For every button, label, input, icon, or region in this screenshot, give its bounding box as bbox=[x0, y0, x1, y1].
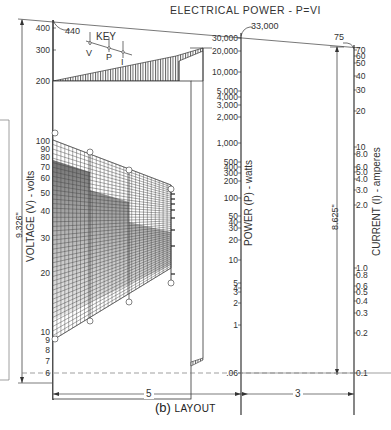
current-tick-label: 40 bbox=[356, 71, 365, 81]
current-scale-label: CURRENT (I) - amperes bbox=[371, 147, 382, 256]
caption-text: LAYOUT bbox=[175, 403, 216, 414]
power-tick-label: 1,000 bbox=[198, 138, 238, 148]
current-tick-label: 2.0 bbox=[356, 200, 368, 210]
key-label: KEY bbox=[96, 32, 116, 42]
voltage-tick-label: 8 bbox=[10, 345, 50, 355]
current-tick-label: 0.4 bbox=[356, 296, 368, 306]
figure-caption: (b) LAYOUT bbox=[155, 400, 216, 415]
power-tick-label: 1 bbox=[198, 320, 238, 330]
power-tick-label: 200 bbox=[198, 176, 238, 186]
power-tick-label: 20 bbox=[198, 235, 238, 245]
power-tick-label: 20,000 bbox=[198, 46, 238, 56]
power-tick-label: 30 bbox=[198, 223, 238, 233]
current-tick-label: 20 bbox=[356, 106, 365, 116]
current-scale-length: 8.625" bbox=[330, 204, 340, 230]
key-v-label: V bbox=[86, 49, 92, 58]
left-width-dimension: 5 bbox=[144, 389, 154, 399]
current-tick-label: 8.0 bbox=[356, 149, 368, 159]
diagram-title: ELECTRICAL POWER - P=VI bbox=[170, 4, 321, 16]
current-tick-label: 0.2 bbox=[356, 328, 368, 338]
voltage-tick-label: 300 bbox=[10, 45, 50, 55]
current-tick-label: 50 bbox=[356, 58, 365, 68]
current-tick-label: 4.0 bbox=[356, 174, 368, 184]
key-p-label: P bbox=[106, 53, 112, 62]
power-max-value: 33,000 bbox=[251, 22, 279, 31]
current-tick-label: 30 bbox=[356, 85, 365, 95]
current-tick-label: 0.3 bbox=[356, 308, 368, 318]
voltage-tick-label: 20 bbox=[10, 268, 50, 278]
voltage-max-value: 440 bbox=[65, 27, 80, 36]
key-i-label: I bbox=[121, 58, 124, 67]
voltage-tick-label: 400 bbox=[10, 23, 50, 33]
voltage-scale-label: VOLTAGE (V) - volts bbox=[25, 171, 36, 262]
power-tick-label: .06 bbox=[198, 368, 238, 378]
power-tick-label: 10 bbox=[198, 255, 238, 265]
voltage-tick-label: 80 bbox=[10, 152, 50, 162]
power-tick-label: 2,000 bbox=[198, 112, 238, 122]
power-scale-label: POWER (P) - watts bbox=[243, 160, 254, 246]
voltage-tick-label: 9 bbox=[10, 335, 50, 345]
voltage-tick-label: 7 bbox=[10, 356, 50, 366]
right-width-dimension: 3 bbox=[293, 389, 303, 399]
current-tick-label: 3.0 bbox=[356, 185, 368, 195]
current-tick-label: 0.1 bbox=[356, 368, 368, 378]
power-tick-label: 100 bbox=[198, 193, 238, 203]
current-tick-label: 0.8 bbox=[356, 270, 368, 280]
power-tick-label: 30,000 bbox=[198, 33, 238, 43]
power-tick-label: 3,000 bbox=[198, 100, 238, 110]
nomograph-layout: ELECTRICAL POWER - P=VI KEY V P I 440 40… bbox=[0, 0, 391, 430]
current-max-value: 75 bbox=[334, 33, 344, 42]
power-tick-label: 10,000 bbox=[198, 67, 238, 77]
power-tick-label: 3 bbox=[198, 287, 238, 297]
voltage-tick-label: 6 bbox=[10, 368, 50, 378]
voltage-scale-length: 9.326" bbox=[14, 212, 24, 238]
caption-prefix: (b) bbox=[155, 400, 171, 415]
voltage-tick-label: 200 bbox=[10, 76, 50, 86]
power-tick-label: 2 bbox=[198, 298, 238, 308]
